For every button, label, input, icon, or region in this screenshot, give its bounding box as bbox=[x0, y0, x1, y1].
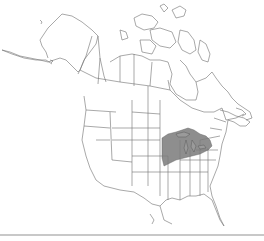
hudson-bay bbox=[168, 60, 198, 100]
canada-mainland-north bbox=[110, 54, 252, 120]
gulf-coast bbox=[150, 206, 172, 224]
province-borders bbox=[98, 54, 244, 120]
arctic-islands bbox=[120, 4, 210, 62]
alaska-islands bbox=[40, 20, 53, 63]
north-america-map bbox=[0, 0, 264, 241]
map-outlines bbox=[2, 4, 252, 226]
alaska-outline bbox=[2, 14, 98, 72]
canada-west-border bbox=[78, 36, 106, 82]
us-west-coast bbox=[82, 96, 104, 186]
bottom-rule bbox=[0, 234, 264, 236]
maritimes bbox=[220, 108, 250, 126]
